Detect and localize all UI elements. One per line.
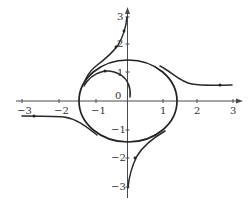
trajectory-arrow-icon xyxy=(134,157,137,160)
x-tick-label: 3 xyxy=(230,105,236,116)
x-tick-label: −1 xyxy=(91,105,106,116)
trajectory-arrow-icon xyxy=(123,30,126,33)
y-tick-label: −3 xyxy=(111,181,126,192)
left-trajectory xyxy=(22,116,97,135)
x-tick-label: 1 xyxy=(160,105,166,116)
trajectory-arrow-icon xyxy=(104,70,107,73)
phase-portrait-diagram: −3 −2 −1 0 1 2 3 3 2 1 −1 −2 −3 xyxy=(0,0,250,208)
trajectory-arrow-icon xyxy=(219,84,222,87)
x-tick-label: −2 xyxy=(54,105,69,116)
x-axis-arrow-icon xyxy=(236,99,243,104)
y-tick-label: 3 xyxy=(117,11,123,22)
y-tick-label: −1 xyxy=(111,124,126,135)
axes xyxy=(16,7,243,198)
x-tick-label: 0 xyxy=(115,90,121,101)
trajectory-arrow-icon xyxy=(115,46,118,49)
x-tick-label: −3 xyxy=(17,105,32,116)
y-tick-label: −2 xyxy=(111,152,126,163)
trajectory-arrow-icon xyxy=(33,115,36,118)
x-tick-labels: −3 −2 −1 0 1 2 3 xyxy=(17,90,236,116)
x-tick-label: 2 xyxy=(194,105,200,116)
y-axis-arrow-icon xyxy=(125,7,130,14)
